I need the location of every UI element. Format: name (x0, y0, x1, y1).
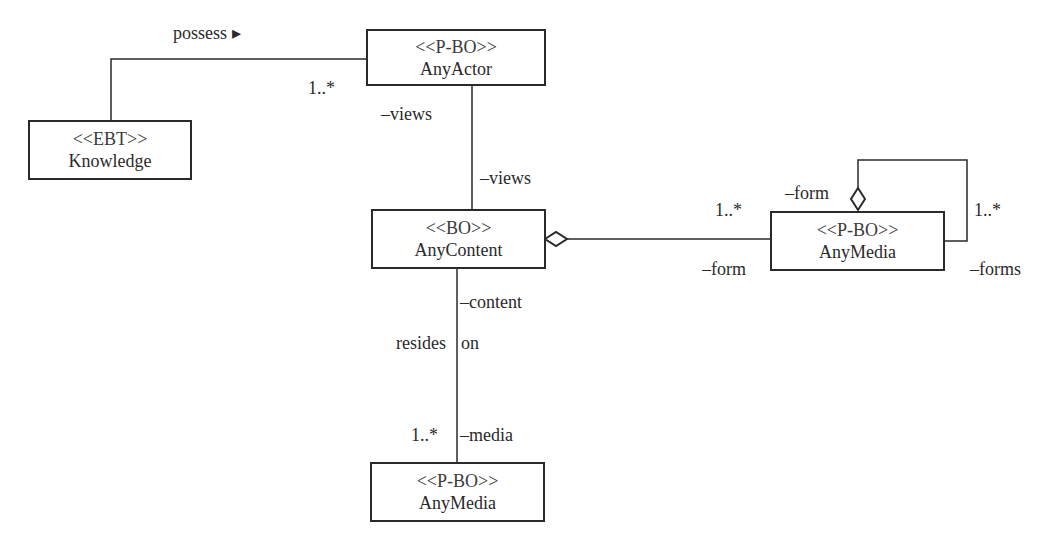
possess-label: possess ▸ (173, 22, 241, 44)
stereotype: <<EBT>> (73, 128, 148, 150)
class-name: AnyActor (420, 58, 492, 80)
stereotype: <<P-BO>> (817, 219, 899, 241)
self-multiplicity: 1..* (974, 200, 1001, 221)
aggregation-form-role: –form (702, 259, 746, 280)
resides-label: resides (396, 333, 446, 354)
class-name: Knowledge (69, 150, 152, 172)
class-any-media-right: <<P-BO>> AnyMedia (770, 211, 945, 271)
aggregation-diamond-icon (545, 232, 567, 246)
content-views-role: –views (480, 168, 531, 189)
class-knowledge: <<EBT>> Knowledge (28, 120, 192, 180)
on-label: on (461, 333, 479, 354)
class-name: AnyMedia (419, 492, 496, 514)
aggregation-multiplicity: 1..* (715, 200, 742, 221)
actor-views-role: –views (381, 104, 432, 125)
self-forms-role: –forms (970, 259, 1021, 280)
class-any-content: <<BO>> AnyContent (371, 209, 546, 269)
stereotype: <<P-BO>> (415, 36, 497, 58)
media-multiplicity: 1..* (411, 425, 438, 446)
self-aggregation-diamond-icon (851, 188, 865, 210)
possess-multiplicity: 1..* (308, 78, 335, 99)
class-name: AnyMedia (819, 241, 896, 263)
stereotype: <<BO>> (426, 217, 492, 239)
media-role: –media (460, 425, 513, 446)
self-form-role: –form (785, 183, 829, 204)
stereotype: <<P-BO>> (417, 470, 499, 492)
class-name: AnyContent (415, 239, 503, 261)
class-any-media-bottom: <<P-BO>> AnyMedia (370, 462, 545, 522)
class-any-actor: <<P-BO>> AnyActor (366, 29, 546, 86)
content-role: –content (460, 292, 522, 313)
